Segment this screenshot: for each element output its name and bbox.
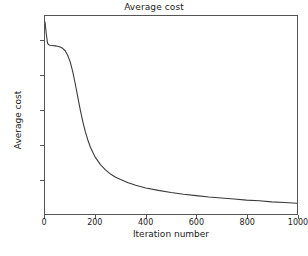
y-axis-label: Average cost (13, 80, 23, 160)
x-tick-label: 0 (41, 218, 46, 227)
chart-title: Average cost (0, 2, 308, 12)
cost-curve (45, 16, 297, 214)
x-axis-label: Iteration number (44, 229, 298, 239)
chart-figure: Average cost Average cost 0.10.20.30.40.… (0, 0, 308, 256)
x-tick-label: 600 (189, 218, 204, 227)
plot-area (44, 15, 298, 215)
x-tick-label: 400 (138, 218, 153, 227)
x-tick-label: 800 (240, 218, 255, 227)
y-tick-mark (40, 145, 44, 146)
y-tick-mark (40, 40, 44, 41)
y-tick-mark (40, 110, 44, 111)
x-tick-label: 200 (87, 218, 102, 227)
x-tick-label: 1000 (288, 218, 308, 227)
y-tick-mark (40, 75, 44, 76)
y-tick-mark (40, 180, 44, 181)
